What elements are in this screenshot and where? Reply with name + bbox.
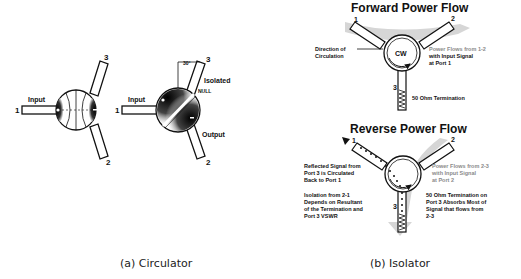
port-2-label: 2 xyxy=(451,15,455,22)
reverse-flow-text-1: Power Flows from 2-3 xyxy=(432,163,489,169)
flow-text-3: at Port 1 xyxy=(429,60,451,66)
isolation-text-2: Depends on Resultant xyxy=(304,199,362,205)
isolator-reverse: Reverse Power Flow 1 2 3 Reflected Signa… xyxy=(304,122,489,236)
isolator-forward: Forward Power Flow CW 1 2 3 Direction of… xyxy=(315,1,486,110)
angle-label: 30° xyxy=(183,60,191,66)
direction-label-2: Circulation xyxy=(315,53,344,59)
reflected-text-3: Back to Port 1 xyxy=(304,177,341,183)
isolation-text-4: Port 3 VSWR xyxy=(304,213,338,219)
forward-title: Forward Power Flow xyxy=(351,1,469,15)
isolated-label: Isolated xyxy=(204,77,230,84)
reflected-text-1: Reflected Signal from xyxy=(304,163,361,169)
direction-label: Direction of xyxy=(315,46,346,52)
caption-circulator: (a) Circulator xyxy=(120,257,192,270)
isolation-text-3: of the Termination and xyxy=(304,206,363,212)
flow-text-2: with Input Signal xyxy=(428,53,473,59)
circulator-left: 1 Input 3 2 xyxy=(15,53,111,167)
port-2-label: 2 xyxy=(206,158,211,167)
reflected-text-2: Port 3 is Circulated xyxy=(304,170,354,176)
cw-label: CW xyxy=(395,50,407,57)
output-label: Output xyxy=(202,131,226,139)
port-1-label: 1 xyxy=(354,16,358,23)
input-label: Input xyxy=(128,96,146,104)
reverse-flow-text-2: with Input Signal xyxy=(431,170,476,176)
input-label: Input xyxy=(28,96,46,104)
flow-text-1: Power Flows from 1-2 xyxy=(429,46,486,52)
port-3-label: 3 xyxy=(393,84,397,91)
reverse-title: Reverse Power Flow xyxy=(350,122,467,136)
circulator-right: 30° 1 Input 3 2 Isolated NULL Output xyxy=(115,55,230,167)
arrow-to-port1-icon xyxy=(342,137,350,145)
port-3-label: 3 xyxy=(104,53,109,62)
reverse-flow-text-3: at Port 2 xyxy=(432,177,454,183)
caption-isolator: (b) Isolator xyxy=(370,257,430,270)
port-1-label: 1 xyxy=(352,137,356,144)
port-1-label: 1 xyxy=(115,106,120,115)
port-2-label: 2 xyxy=(451,136,455,143)
port-3-label: 3 xyxy=(393,203,397,210)
isolation-text-1: Isolation from 2-1 xyxy=(304,192,350,198)
termination-label: 50 Ohm Termination xyxy=(412,95,465,101)
port-2-label: 2 xyxy=(106,158,111,167)
term-text-2: Port 3 Absorbs Most of xyxy=(426,199,486,205)
port-1-label: 1 xyxy=(15,106,20,115)
term-text-1: 50 Ohm Termination on xyxy=(426,192,488,198)
null-label: NULL xyxy=(198,88,211,94)
port-3-label: 3 xyxy=(206,55,211,64)
term-text-4: 2-3 xyxy=(426,213,434,219)
figure-canvas: 1 Input 3 2 30° 1 Input 3 2 Isolated NUL… xyxy=(0,0,521,279)
term-text-3: Signal that flows from xyxy=(426,206,484,212)
